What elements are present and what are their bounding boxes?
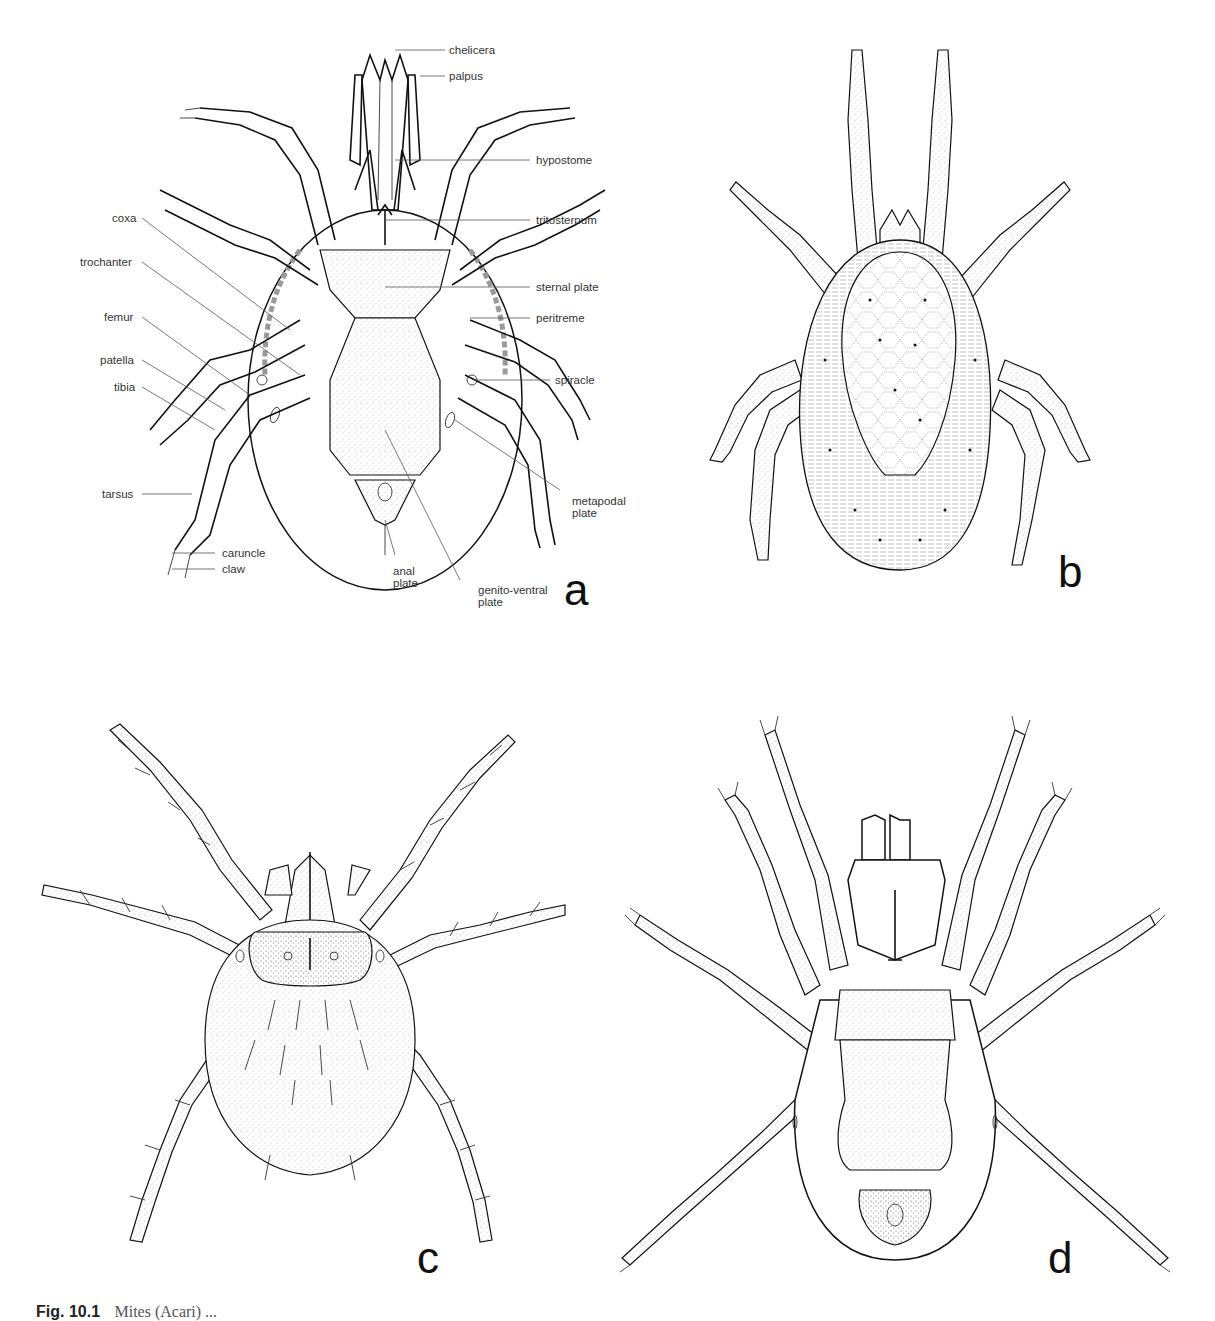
label-hypostome: hypostome [536, 154, 592, 166]
mite-larva-dorsal [30, 680, 590, 1280]
label-palpus: palpus [449, 70, 483, 82]
mite-ventral-d [600, 680, 1200, 1280]
label-metapodal-plate: metapodal plate [572, 495, 626, 519]
panel-letter-b: b [1058, 550, 1082, 594]
label-claw: claw [222, 563, 245, 575]
panel-letter-c: c [417, 1236, 439, 1280]
panel-d: d [600, 680, 1200, 1280]
mite-dorsal-reticulate [680, 30, 1120, 620]
label-femur: femur [104, 311, 133, 323]
panel-c: c [30, 680, 590, 1280]
label-anal-plate: anal plate [393, 565, 418, 589]
label-sternal-plate: sternal plate [536, 281, 599, 293]
label-tibia: tibia [114, 381, 135, 393]
panel-b: b [680, 30, 1120, 620]
label-patella: patella [100, 354, 134, 366]
label-tritosternum: tritosternum [536, 214, 597, 226]
label-trochanter: trochanter [80, 256, 132, 268]
panel-letter-d: d [1048, 1236, 1072, 1280]
figure-caption: Fig. 10.1 Mites (Acari) ... [36, 1303, 217, 1321]
label-genito-ventral-plate: genito-ventral plate [478, 584, 548, 608]
label-peritreme: peritreme [536, 312, 585, 324]
panel-a: chelicera palpus hypostome tritosternum … [0, 0, 620, 640]
label-caruncle: caruncle [222, 547, 265, 559]
label-chelicera: chelicera [449, 44, 495, 56]
label-coxa: coxa [112, 212, 136, 224]
panel-letter-a: a [564, 568, 588, 612]
mite-ventral-diagram [0, 0, 620, 640]
label-spiracle: spiracle [555, 374, 595, 386]
figure-number: Fig. 10.1 [36, 1303, 100, 1320]
label-tarsus: tarsus [102, 488, 133, 500]
caption-text: Mites (Acari) ... [114, 1303, 217, 1320]
